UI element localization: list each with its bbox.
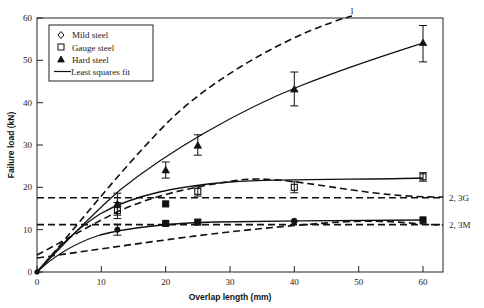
data-point-gauge-25 — [194, 187, 202, 196]
x-tick-label-30: 30 — [226, 277, 236, 287]
y-tick-label-50: 50 — [23, 55, 33, 65]
data-point-mild-25 — [195, 219, 201, 225]
x-tick-label-10: 10 — [97, 277, 107, 287]
data-point-gauge-60 — [419, 173, 427, 182]
y-tick-label-0: 0 — [28, 267, 33, 277]
y-axis-title: Failure load (kN) — [6, 112, 16, 179]
annotation-curve-2-3m: 2, 3M — [449, 220, 471, 230]
legend-label-mild-steel: Mild steel — [72, 30, 109, 40]
chart-svg: 0 10 20 30 40 50 60 0 10 20 30 40 50 60 … — [0, 0, 484, 308]
annotation-curve-1: 1 — [350, 6, 355, 16]
origin-marker — [34, 269, 39, 274]
legend-label-hard-steel: Hard steel — [72, 55, 109, 65]
y-tick-label-60: 60 — [23, 13, 33, 23]
x-tick-label-40: 40 — [290, 277, 300, 287]
data-point-mild-40 — [291, 218, 297, 224]
y-axis-tick-labels: 0 10 20 30 40 50 60 — [23, 13, 33, 277]
chart-figure: 0 10 20 30 40 50 60 0 10 20 30 40 50 60 … — [0, 0, 484, 308]
y-tick-label-30: 30 — [23, 140, 33, 150]
annotation-curve-2-3g: 2, 3G — [449, 193, 470, 203]
legend-label-least-squares-fit: Least squares fit — [71, 67, 130, 77]
x-axis-tick-labels: 0 10 20 30 40 50 60 — [35, 277, 428, 287]
x-axis-title: Overlap length (mm) — [189, 292, 272, 302]
x-tick-label-0: 0 — [35, 277, 40, 287]
chart-legend: Mild steel Gauge steel Hard steel Least … — [49, 25, 153, 81]
x-tick-label-60: 60 — [419, 277, 429, 287]
data-point-gauge-20 — [163, 201, 169, 207]
y-tick-label-40: 40 — [23, 98, 33, 108]
data-point-mild-60 — [420, 217, 426, 223]
y-tick-label-10: 10 — [23, 225, 33, 235]
x-tick-label-50: 50 — [354, 277, 364, 287]
data-point-mild-20 — [163, 220, 169, 226]
y-tick-label-20: 20 — [23, 182, 33, 192]
x-tick-label-20: 20 — [161, 277, 171, 287]
legend-label-gauge-steel: Gauge steel — [72, 43, 115, 53]
